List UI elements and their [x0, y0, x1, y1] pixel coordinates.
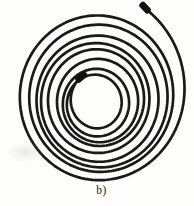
figure-label: b)	[0, 182, 194, 198]
coiled-cable-figure: b)	[0, 0, 194, 206]
cable-spiral-path	[20, 11, 185, 180]
spiral-drawing-canvas	[0, 0, 194, 206]
